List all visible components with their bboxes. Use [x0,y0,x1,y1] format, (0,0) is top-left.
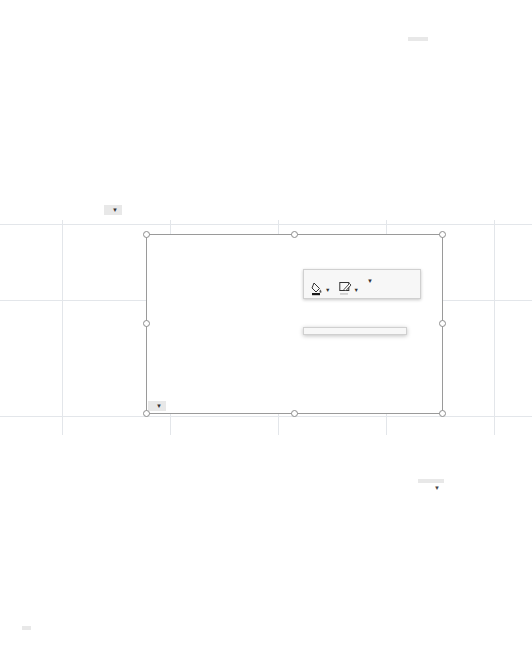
chevron-down-icon: ▼ [112,207,118,213]
sheet-gridline [0,416,532,417]
sheet-gridline [0,224,532,225]
resize-handle-top-center[interactable] [291,231,298,238]
resize-handle-top-right[interactable] [439,231,446,238]
axis-tooltip: ▼ [365,278,373,284]
mini-format-toolbar[interactable]: ▼ ▼ [303,269,421,299]
resize-handle-bottom-center[interactable] [291,410,298,417]
panel-a-pivot-bar-chart: ▼ [0,0,532,220]
outline-tool[interactable]: ▼ [339,281,358,296]
fill-glyph-row: ▼ [311,281,330,296]
field-button-sources-of-expenditure-a[interactable]: ▼ [104,205,122,215]
fill-bucket-icon [311,281,324,296]
outline-glyph-row: ▼ [339,281,358,296]
chevron-down-icon: ▼ [434,483,440,494]
outline-pencil-icon [339,281,352,296]
panel-b-selected-chart: ▼ ▼ [0,220,532,435]
resize-handle-middle-right[interactable] [439,320,446,327]
chart-a-plot-area [88,16,398,164]
resize-handle-bottom-right[interactable] [439,410,446,417]
resize-handle-top-left[interactable] [143,231,150,238]
chart-c-plot-area [68,458,410,618]
sheet-gridline [494,220,495,435]
resize-handle-bottom-left[interactable] [143,410,150,417]
chart-c-y-axis [8,458,64,618]
chart-a-y-axis [20,16,84,164]
chevron-down-icon: ▼ [353,285,358,295]
resize-handle-middle-left[interactable] [143,320,150,327]
chart-c-legend: ▼ [418,475,532,485]
field-button-sources-of-expenditure-b[interactable]: ▼ [148,401,166,411]
chevron-down-icon: ▼ [367,278,373,284]
legend-title-sources-of-expenditure: ▼ [418,479,444,483]
chart-a-legend [408,33,530,43]
fill-tool[interactable]: ▼ [311,281,330,296]
chevron-down-icon: ▼ [156,403,162,409]
field-button-values-c[interactable] [22,626,31,630]
chart-b-y-axis[interactable] [140,255,196,364]
panel-c-line-chart: ▼ [0,430,532,656]
sheet-gridline [62,220,63,435]
chevron-down-icon: ▼ [325,285,330,295]
chart-context-menu[interactable] [303,327,407,335]
legend-title-values [408,37,428,41]
